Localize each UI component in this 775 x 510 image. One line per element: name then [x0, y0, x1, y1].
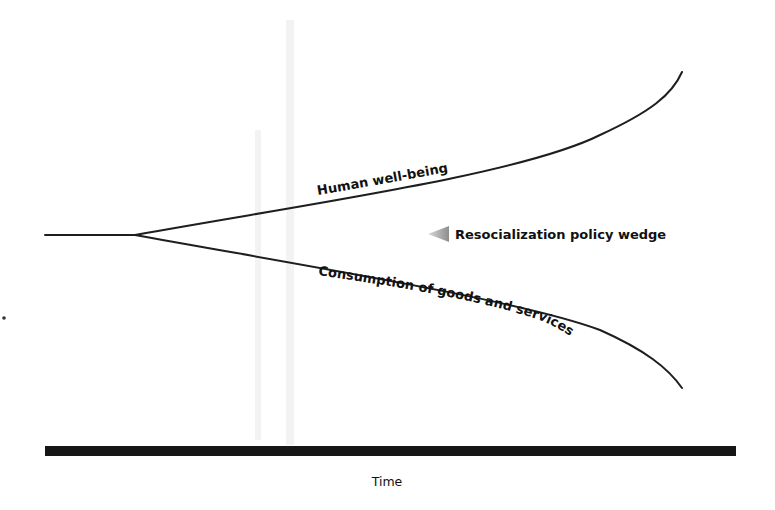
consumption-curve	[135, 235, 682, 388]
scan-dot	[2, 316, 6, 320]
left-arrow-icon	[428, 226, 449, 242]
wedge-annotation: Resocialization policy wedge	[428, 226, 666, 242]
human-well-being-curve	[135, 72, 682, 235]
wedge-label: Resocialization policy wedge	[455, 227, 666, 242]
time-axis-label: Time	[371, 474, 403, 489]
policy-wedge-diagram: Human well-being Consumption of goods an…	[0, 0, 775, 510]
consumption-label: Consumption of goods and services	[318, 263, 577, 339]
scan-artifact	[286, 20, 294, 445]
scan-artifact	[255, 130, 261, 440]
time-axis	[45, 446, 736, 456]
